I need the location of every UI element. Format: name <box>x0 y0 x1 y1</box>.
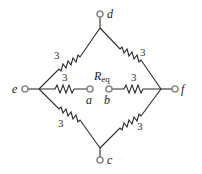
terminal-a[interactable] <box>87 86 93 92</box>
label-a: a <box>86 93 92 107</box>
resistor-b-f <box>111 85 161 93</box>
label-c: c <box>107 153 113 167</box>
value-r-ed: 3 <box>54 49 60 61</box>
value-r-ec: 3 <box>58 117 64 129</box>
terminal-b[interactable] <box>106 86 112 92</box>
terminal-c[interactable] <box>97 157 103 163</box>
value-r-ea: 3 <box>62 71 68 83</box>
value-r-df: 3 <box>140 46 146 58</box>
resistor-e-d <box>39 28 100 89</box>
label-f: f <box>181 82 186 96</box>
value-r-bf: 3 <box>131 71 137 83</box>
label-d: d <box>107 7 114 21</box>
terminal-f[interactable] <box>172 86 178 92</box>
label-e: e <box>12 82 18 96</box>
req-label: Req <box>93 69 110 84</box>
value-r-cf: 3 <box>137 120 143 132</box>
resistor-e-a <box>39 85 88 93</box>
circuit-diagram: d e f c a b 3 3 3 3 3 3 Req <box>0 0 202 174</box>
terminal-e[interactable] <box>22 86 28 92</box>
terminal-d[interactable] <box>97 11 103 17</box>
label-b: b <box>104 93 110 107</box>
